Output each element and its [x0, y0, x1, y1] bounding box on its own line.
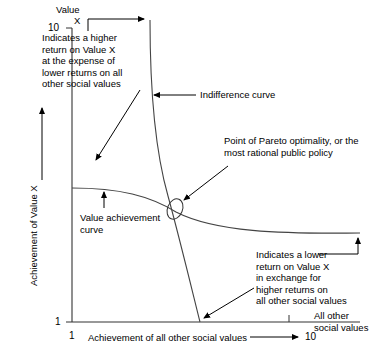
lower-return-line1: Indicates a lower [256, 249, 347, 261]
y-axis-header-value: Value [56, 4, 80, 15]
lower-return-line3: in exchange for [256, 272, 347, 284]
higher-return-line2: return on Value X [42, 44, 122, 56]
higher-return-leader [88, 19, 144, 31]
pareto-callout: Point of Pareto optimality, or the most … [224, 135, 358, 158]
pareto-optimality-marker [164, 196, 186, 221]
pareto-callout-leader [184, 166, 228, 200]
lower-return-callout: Indicates a lower return on Value X in e… [256, 249, 347, 307]
value-achievement-line1: Value achievement [80, 212, 160, 224]
higher-return-line1: Indicates a higher [42, 32, 122, 44]
higher-return-line3: at the expense of [42, 55, 122, 67]
higher-return-diagonal-leader [96, 90, 140, 160]
higher-return-line4: lower returns on all [42, 67, 122, 79]
higher-return-callout: Indicates a higher return on Value X at … [42, 32, 122, 90]
lower-return-line4: higher returns on [256, 284, 347, 296]
x-axis-far-label-line2: social values [314, 322, 368, 333]
x-axis-direction-arrow [250, 330, 306, 344]
y-axis-header-x: X [74, 15, 80, 26]
pareto-line2: most rational public policy [224, 147, 358, 159]
pareto-line1: Point of Pareto optimality, or the [224, 135, 358, 147]
lower-return-line2: return on Value X [256, 261, 347, 273]
lower-return-line5: all other social values [256, 295, 347, 307]
indifference-curve-callout: Indifference curve [200, 89, 275, 101]
chart-figure: Value X 10 1 1 10 Achievement of all oth… [0, 0, 384, 362]
x-tick-label-1: 1 [69, 330, 75, 341]
value-achievement-callout: Value achievement curve [80, 212, 160, 235]
higher-return-line5: other social values [42, 78, 122, 90]
lower-return-leader-diagonal [204, 288, 254, 318]
value-achievement-line2: curve [80, 224, 160, 236]
y-axis-title: Achievement of Value X [28, 185, 39, 286]
y-tick-label-1: 1 [55, 316, 61, 327]
x-axis-title: Achievement of all other social values [88, 332, 247, 343]
x-axis-far-label-line1: All other [314, 310, 349, 321]
indifference-curve [150, 20, 200, 322]
